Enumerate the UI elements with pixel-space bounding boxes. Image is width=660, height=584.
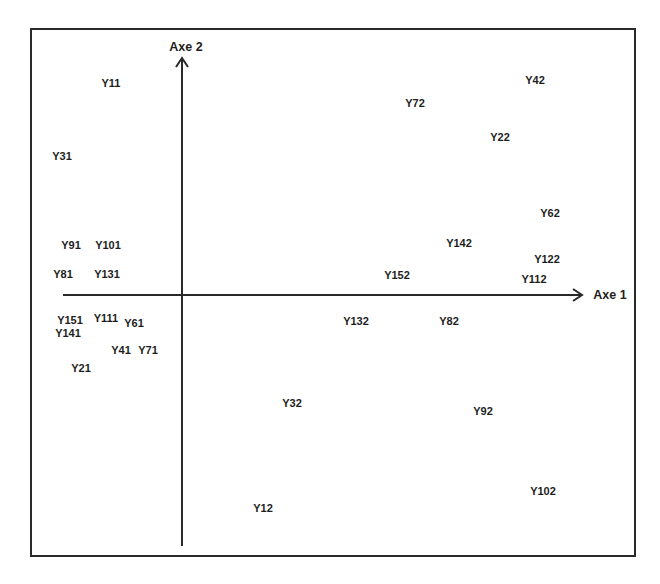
point-label: Y22: [490, 131, 510, 143]
point-label: Y131: [94, 268, 120, 280]
point-label: Y102: [530, 485, 556, 497]
point-label: Y142: [446, 237, 472, 249]
point-label: Y12: [253, 502, 273, 514]
point-label: Y61: [124, 317, 144, 329]
point-label: Y151: [57, 314, 83, 326]
point-label: Y111: [94, 312, 118, 324]
point-label: Y92: [473, 405, 493, 417]
point-label: Y152: [384, 269, 410, 281]
point-label: Y112: [521, 273, 546, 285]
point-label: Y122: [534, 253, 560, 265]
point-label: Y42: [525, 74, 545, 86]
point-label: Y32: [282, 397, 302, 409]
scatter-chart: Axe 1 Axe 2 Y11Y31Y91Y101Y81Y131Y151Y111…: [0, 0, 660, 584]
point-label: Y72: [405, 97, 425, 109]
point-label: Y132: [343, 315, 369, 327]
point-label: Y101: [95, 239, 121, 251]
point-label: Y41: [111, 344, 131, 356]
point-label: Y71: [138, 344, 158, 356]
x-axis-label: Axe 1: [593, 288, 626, 302]
point-label: Y11: [102, 77, 121, 89]
point-label: Y82: [439, 315, 459, 327]
point-label: Y141: [55, 327, 81, 339]
point-label: Y31: [52, 150, 72, 162]
point-label: Y81: [53, 268, 73, 280]
axes-svg: [0, 0, 660, 584]
point-label: Y91: [61, 239, 81, 251]
point-label: Y62: [540, 207, 560, 219]
y-axis-label: Axe 2: [169, 40, 202, 54]
point-label: Y21: [71, 362, 91, 374]
